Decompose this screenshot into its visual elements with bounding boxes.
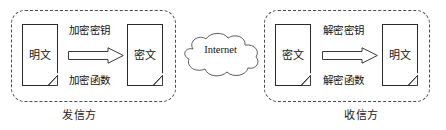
document-fold-corner-icon: [153, 72, 163, 86]
receiver-caption: 收信方: [344, 106, 379, 122]
document-fold-corner-icon: [48, 72, 58, 86]
document-fold-corner-icon: [408, 72, 418, 86]
sender-caption: 发信方: [62, 106, 97, 122]
encryption-key-label: 加密密钥: [69, 22, 110, 37]
internet-label: Internet: [179, 44, 262, 55]
document-icon-plaintext-output: 明文: [382, 24, 418, 86]
document-label: 明文: [22, 46, 58, 62]
document-icon-ciphertext-output: 密文: [127, 24, 163, 86]
diagram-canvas: 明文 加密密钥 加密函数 密文 发信方 Internet: [0, 0, 446, 130]
right-block-arrow-icon-encrypt: [68, 47, 124, 64]
cloud-icon: [179, 31, 262, 79]
decryption-function-label: 解密函数: [323, 72, 364, 87]
document-label: 密文: [127, 46, 163, 62]
document-icon-ciphertext-input: 密文: [275, 24, 311, 86]
decryption-key-label: 解密密钥: [323, 22, 364, 37]
document-label: 密文: [275, 46, 311, 62]
encryption-function-label: 加密函数: [69, 72, 110, 87]
document-icon-plaintext-input: 明文: [22, 24, 58, 86]
document-label: 明文: [382, 46, 418, 62]
right-block-arrow-icon-decrypt: [322, 47, 378, 64]
document-fold-corner-icon: [301, 72, 311, 86]
